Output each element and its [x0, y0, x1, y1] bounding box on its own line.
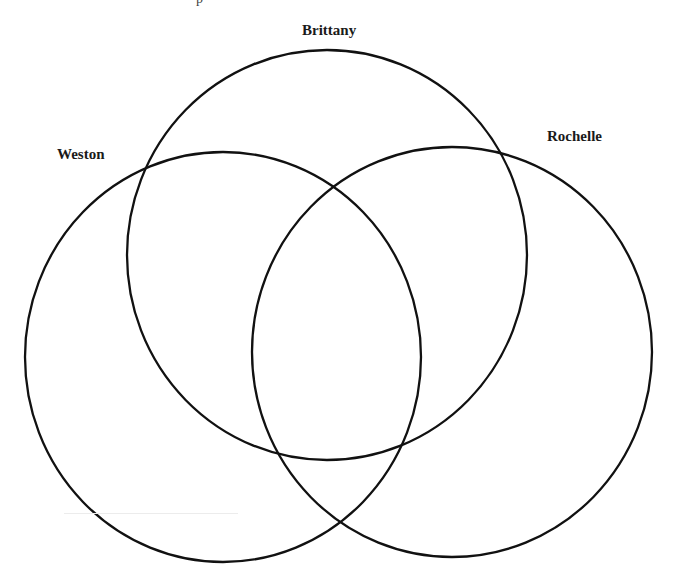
label-brittany: Brittany: [302, 22, 356, 39]
circle-weston: [25, 152, 421, 562]
circle-rochelle: [252, 147, 652, 557]
label-weston: Weston: [57, 146, 105, 163]
venn-diagram: [0, 0, 674, 586]
circle-brittany: [127, 50, 527, 460]
label-rochelle: Rochelle: [547, 128, 602, 145]
faint-artifact-line: [64, 513, 238, 514]
